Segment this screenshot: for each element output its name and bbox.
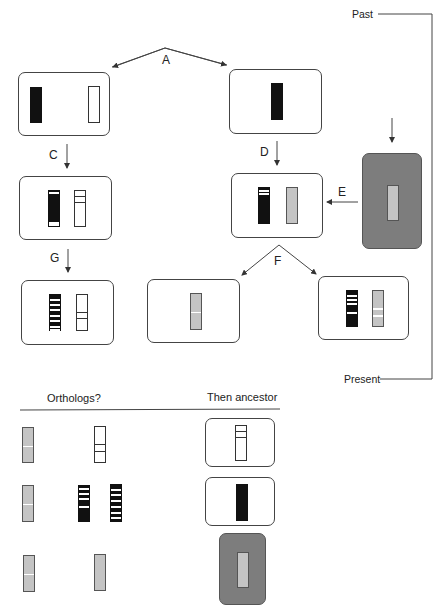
row3-ancestor-box-donor [219,533,266,605]
step-label-a: A [162,53,170,67]
gene-black [30,87,42,123]
ancestor-gene-white [235,425,247,461]
row2-gene-black-b [110,484,122,522]
step-label-e: E [338,185,346,199]
gene-black-banded [49,294,61,331]
row3-gene-grey-banded [23,555,35,592]
gene-black-banded [48,190,60,227]
present-label: Present [344,373,380,385]
header-then-ancestor: Then ancestor [207,391,277,403]
step-label-f: F [274,254,281,268]
genome-box-f-left [147,279,240,343]
gene-white-banded [76,294,88,331]
ancestor-gene-black [236,484,248,521]
ancestor-gene-grey [237,552,249,588]
genome-box-g [21,280,114,345]
past-label: Past [352,8,373,20]
genome-box-donor [362,153,422,249]
gene-black-banded [346,290,358,327]
genome-box-f-right [318,276,409,340]
row2-ancestor-box [205,477,275,526]
gene-grey-banded [190,293,202,330]
row3-gene-grey [94,554,106,591]
gene-grey [387,185,399,221]
step-label-g: G [50,251,59,265]
gene-black-banded [258,187,270,224]
header-orthologs: Orthologs? [47,392,101,404]
genome-box-a-left [18,72,110,136]
gene-grey [286,187,298,224]
row1-gene-white [94,426,106,463]
gene-white-copy [88,86,100,123]
step-label-c: C [49,148,58,162]
step-label-d: D [260,145,269,159]
genome-box-d [231,173,323,238]
gene-black [271,83,283,120]
gene-white-banded [74,190,86,227]
gene-grey-banded [372,290,384,327]
genome-box-a-right [229,69,322,134]
row2-gene-grey [22,485,34,522]
row2-gene-black-a [78,485,90,522]
row1-ancestor-box [205,418,275,467]
row1-gene-grey [22,427,34,463]
genome-box-c [19,176,112,240]
